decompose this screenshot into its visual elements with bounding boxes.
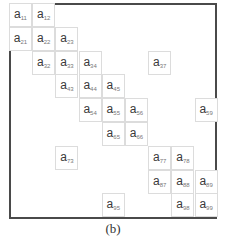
matrix-cell-a34: a34 bbox=[79, 51, 102, 75]
matrix-cell-a73: a73 bbox=[55, 146, 78, 170]
cell-subscript: 95 bbox=[113, 205, 120, 211]
cell-base-letter: a bbox=[153, 151, 160, 163]
matrix-cell-a22: a22 bbox=[32, 27, 55, 51]
cell-base-letter: a bbox=[83, 79, 90, 91]
cell-base-letter: a bbox=[130, 103, 137, 115]
cell-subscript: 33 bbox=[67, 63, 74, 69]
matrix-cell-a32: a32 bbox=[32, 51, 55, 75]
matrix-cell-a87: a87 bbox=[148, 170, 171, 194]
cell-subscript: 89 bbox=[206, 182, 213, 188]
cell-subscript: 56 bbox=[137, 110, 144, 116]
cell-subscript: 54 bbox=[90, 110, 97, 116]
cell-base-letter: a bbox=[176, 175, 183, 187]
cell-base-letter: a bbox=[14, 8, 21, 20]
cell-base-letter: a bbox=[14, 32, 21, 44]
cell-subscript: 37 bbox=[160, 63, 167, 69]
matrix-cell-a12: a12 bbox=[32, 3, 55, 27]
cell-base-letter: a bbox=[176, 151, 183, 163]
cell-base-letter: a bbox=[153, 175, 160, 187]
cell-base-letter: a bbox=[107, 103, 114, 115]
cell-subscript: 44 bbox=[90, 86, 97, 92]
matrix-cell-a98: a98 bbox=[171, 193, 194, 217]
cell-subscript: 43 bbox=[67, 86, 74, 92]
cell-base-letter: a bbox=[199, 198, 206, 210]
cell-base-letter: a bbox=[176, 198, 183, 210]
cell-base-letter: a bbox=[83, 56, 90, 68]
matrix-cell-a44: a44 bbox=[79, 74, 102, 98]
matrix-cell-a43: a43 bbox=[55, 74, 78, 98]
cell-base-letter: a bbox=[60, 56, 67, 68]
matrix-cell-a55: a55 bbox=[102, 98, 125, 122]
matrix-cell-a45: a45 bbox=[102, 74, 125, 98]
matrix-cell-a54: a54 bbox=[79, 98, 102, 122]
matrix-cell-a78: a78 bbox=[171, 146, 194, 170]
cell-base-letter: a bbox=[83, 103, 90, 115]
cell-subscript: 77 bbox=[160, 158, 167, 164]
cell-subscript: 65 bbox=[113, 134, 120, 140]
cell-subscript: 78 bbox=[183, 158, 190, 164]
cell-base-letter: a bbox=[60, 32, 67, 44]
cell-subscript: 45 bbox=[113, 86, 120, 92]
cell-subscript: 87 bbox=[160, 182, 167, 188]
cell-subscript: 88 bbox=[183, 182, 190, 188]
matrix-cell-a89: a89 bbox=[195, 170, 218, 194]
cell-subscript: 11 bbox=[21, 15, 27, 21]
matrix-cell-a56: a56 bbox=[125, 98, 148, 122]
cell-subscript: 21 bbox=[21, 39, 28, 45]
cell-subscript: 59 bbox=[206, 110, 213, 116]
cell-base-letter: a bbox=[130, 127, 137, 139]
cell-subscript: 55 bbox=[113, 110, 120, 116]
matrix-cell-a33: a33 bbox=[55, 51, 78, 75]
cell-subscript: 34 bbox=[90, 63, 97, 69]
matrix-cell-a88: a88 bbox=[171, 170, 194, 194]
matrix-cell-a99: a99 bbox=[195, 193, 218, 217]
matrix-cell-a21: a21 bbox=[9, 27, 32, 51]
matrix-cell-a77: a77 bbox=[148, 146, 171, 170]
cell-subscript: 12 bbox=[44, 15, 51, 21]
matrix-cell-a11: a11 bbox=[9, 3, 32, 27]
matrix-cell-a37: a37 bbox=[148, 51, 171, 75]
matrix-cell-a66: a66 bbox=[125, 122, 148, 146]
cell-base-letter: a bbox=[107, 198, 114, 210]
cell-subscript: 32 bbox=[44, 63, 51, 69]
cell-subscript: 66 bbox=[137, 134, 144, 140]
figure-caption: (b) bbox=[0, 221, 226, 237]
matrix-cell-a59: a59 bbox=[195, 98, 218, 122]
sparse-matrix-figure: a11a12a21a22a23a32a33a34a37a43a44a45a54a… bbox=[0, 0, 226, 240]
cell-subscript: 98 bbox=[183, 205, 190, 211]
cell-base-letter: a bbox=[153, 56, 160, 68]
cell-base-letter: a bbox=[60, 79, 67, 91]
cell-base-letter: a bbox=[107, 79, 114, 91]
matrix-cell-a95: a95 bbox=[102, 193, 125, 217]
matrix-cell-a23: a23 bbox=[55, 27, 78, 51]
cell-subscript: 23 bbox=[67, 39, 74, 45]
cell-base-letter: a bbox=[107, 127, 114, 139]
cell-subscript: 73 bbox=[67, 158, 74, 164]
cell-base-letter: a bbox=[60, 151, 67, 163]
cell-subscript: 99 bbox=[206, 205, 213, 211]
cell-base-letter: a bbox=[37, 32, 44, 44]
cell-subscript: 22 bbox=[44, 39, 51, 45]
cell-base-letter: a bbox=[37, 8, 44, 20]
cell-base-letter: a bbox=[37, 56, 44, 68]
cell-base-letter: a bbox=[199, 175, 206, 187]
cell-base-letter: a bbox=[199, 103, 206, 115]
matrix-cell-a65: a65 bbox=[102, 122, 125, 146]
